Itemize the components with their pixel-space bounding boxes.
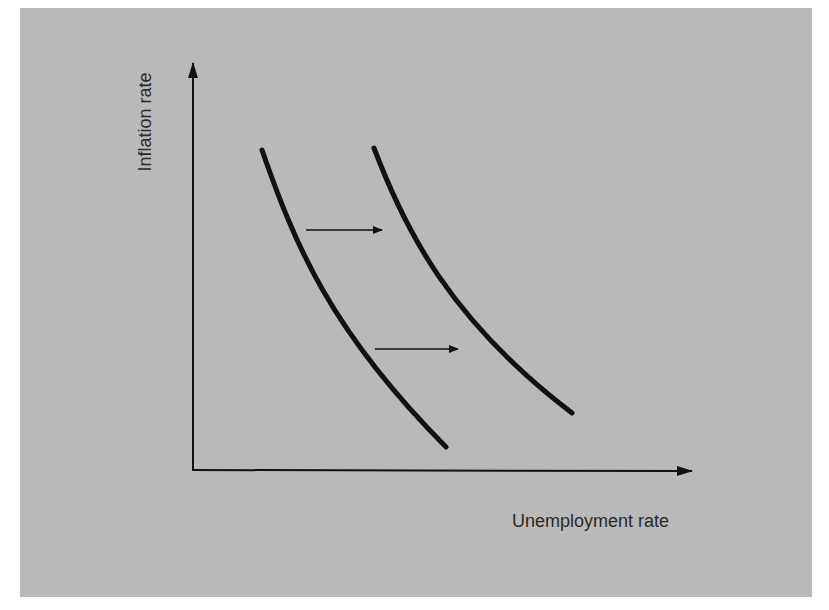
x-axis: [192, 470, 692, 471]
phillips-curve-diagram: [0, 0, 829, 610]
y-axis-label: Inflation rate: [135, 72, 156, 171]
curve-original: [262, 150, 446, 447]
curve-shifted: [374, 148, 572, 413]
x-axis-label: Unemployment rate: [512, 511, 669, 532]
